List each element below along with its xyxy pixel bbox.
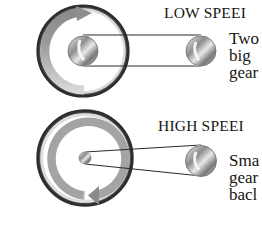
description-line: big: [229, 47, 259, 64]
description-line: gear: [229, 169, 259, 186]
low-speed-heading: LOW SPEEI: [164, 5, 246, 21]
drive-hub-icon: [79, 152, 92, 165]
description-line: Sma: [229, 152, 259, 169]
description-line: gear: [229, 64, 259, 81]
high-speed-heading: HIGH SPEEI: [158, 118, 244, 134]
rear-gear-icon: [185, 145, 217, 177]
rear-gear-icon: [186, 36, 217, 67]
low-speed-description: Two big gear: [229, 30, 259, 81]
description-line: Two: [229, 30, 259, 47]
description-line: bacl: [229, 186, 259, 203]
gear-diagram: LOW SPEEI Two big gear HIGH SPEEI Sma ge…: [0, 0, 262, 234]
high-speed-description: Sma gear bacl: [229, 152, 259, 203]
drive-hub-icon: [68, 36, 99, 67]
